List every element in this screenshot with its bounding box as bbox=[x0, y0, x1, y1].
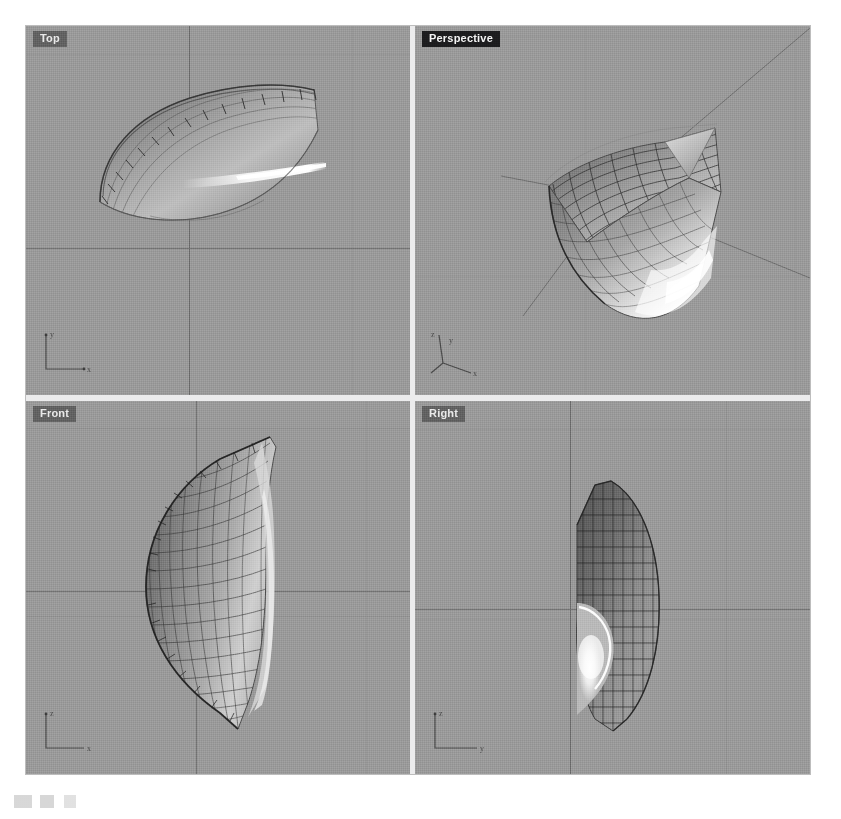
viewport-label-front[interactable]: Front bbox=[33, 406, 76, 422]
viewport-label-top[interactable]: Top bbox=[33, 31, 67, 47]
viewport-label-perspective[interactable]: Perspective bbox=[422, 31, 500, 47]
viewport-label-right[interactable]: Right bbox=[422, 406, 465, 422]
scanned-page: Top y x bbox=[0, 0, 841, 819]
nurbs-surface-perspective-view[interactable] bbox=[539, 122, 759, 332]
axis-gizmo-perspective-label-right: y bbox=[449, 336, 453, 345]
axis-gizmo-right: z y bbox=[427, 708, 491, 760]
nurbs-surface-right-view[interactable] bbox=[555, 479, 675, 734]
axis-gizmo-right-label-horizontal: y bbox=[480, 744, 484, 753]
viewport-perspective[interactable]: Perspective z y x bbox=[415, 26, 810, 395]
axis-gizmo-top: y x bbox=[38, 329, 102, 381]
viewport-divider-horizontal[interactable] bbox=[26, 395, 810, 401]
scan-artifact bbox=[14, 795, 92, 808]
viewport-front[interactable]: Front z x bbox=[26, 401, 410, 774]
axis-gizmo-perspective-label-vertical: z bbox=[431, 330, 435, 339]
axis-gizmo-front: z x bbox=[38, 708, 102, 760]
viewport-right[interactable]: Right z y bbox=[415, 401, 810, 774]
cad-four-viewport-window: Top y x bbox=[26, 26, 810, 774]
axis-gizmo-perspective: z y x bbox=[427, 329, 491, 381]
axis-gizmo-perspective-label-front: x bbox=[473, 369, 477, 378]
axis-gizmo-top-label-horizontal: x bbox=[87, 365, 91, 374]
nurbs-surface-front-view[interactable] bbox=[116, 437, 326, 737]
axis-gizmo-top-label-vertical: y bbox=[50, 330, 54, 339]
axis-gizmo-front-label-horizontal: x bbox=[87, 744, 91, 753]
viewport-top[interactable]: Top y x bbox=[26, 26, 410, 395]
axis-gizmo-front-label-vertical: z bbox=[50, 709, 54, 718]
axis-gizmo-right-label-vertical: z bbox=[439, 709, 443, 718]
nurbs-surface-top-view[interactable] bbox=[86, 76, 386, 266]
